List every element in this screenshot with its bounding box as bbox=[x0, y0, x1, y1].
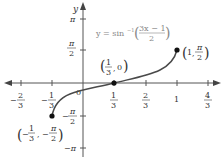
svg-text:): ) bbox=[165, 25, 170, 41]
svg-text:): ) bbox=[204, 45, 209, 61]
svg-text:y = sin: y = sin bbox=[95, 29, 124, 38]
y-axis-label: y bbox=[72, 4, 79, 14]
svg-text:2: 2 bbox=[69, 49, 74, 58]
svg-text:2: 2 bbox=[149, 34, 154, 43]
point-one-third-zero bbox=[111, 80, 116, 85]
y-tick-label-neg-pi-2: − π 2 bbox=[62, 107, 77, 126]
x-tick-label-1-3: 1 3 bbox=[110, 91, 118, 110]
svg-text:3: 3 bbox=[205, 101, 210, 110]
svg-text:3: 3 bbox=[111, 101, 116, 110]
svg-text:3x − 1: 3x − 1 bbox=[139, 24, 165, 33]
svg-text:−: − bbox=[22, 130, 29, 139]
svg-text:π: π bbox=[68, 39, 75, 48]
svg-text:π: π bbox=[69, 107, 76, 116]
svg-text:2: 2 bbox=[51, 134, 56, 143]
svg-text:3: 3 bbox=[29, 134, 34, 143]
svg-text:2: 2 bbox=[197, 53, 202, 62]
x-tick-label-4-3: 4 3 bbox=[204, 91, 212, 110]
svg-text:): ) bbox=[58, 127, 63, 143]
svg-text:,: , bbox=[37, 130, 40, 139]
svg-text:2: 2 bbox=[18, 91, 23, 100]
svg-text:−: − bbox=[42, 130, 49, 139]
x-axis-left-arrow-icon bbox=[4, 80, 12, 86]
svg-text:,: , bbox=[192, 49, 195, 58]
x-tick-label-neg-2-3: − 2 3 bbox=[10, 91, 25, 110]
svg-text:π: π bbox=[50, 124, 57, 133]
label-point-neg-one-third-neg-pi-over-2: ( − 1 3 , − π 2 ) bbox=[17, 124, 63, 143]
svg-text:(: ( bbox=[100, 58, 105, 74]
chart: y − 2 3 − 1 3 1 3 2 3 1 4 3 bbox=[0, 0, 222, 157]
label-point-one-pi-over-2: ( 1 , π 2 ) bbox=[182, 43, 209, 62]
svg-text:−: − bbox=[62, 112, 69, 121]
svg-text:3: 3 bbox=[49, 101, 54, 110]
y-tick-label-neg-pi: −π bbox=[64, 144, 77, 153]
y-tick-label-pi: π bbox=[69, 15, 76, 24]
y-tick-label-pi-2: π 2 bbox=[67, 39, 76, 58]
equation-label: y = sin −1 ( 3x − 1 2 ) bbox=[95, 24, 170, 43]
point-one-pi-over-2 bbox=[174, 47, 179, 52]
svg-text:,: , bbox=[113, 64, 116, 73]
svg-text:1: 1 bbox=[29, 124, 34, 133]
svg-text:): ) bbox=[123, 58, 128, 74]
y-axis-up-arrow-icon bbox=[80, 2, 86, 10]
x-tick-label-neg-1-3: − 1 3 bbox=[41, 91, 56, 110]
svg-text:−: − bbox=[41, 96, 48, 105]
svg-text:1: 1 bbox=[49, 91, 54, 100]
svg-text:2: 2 bbox=[70, 117, 75, 126]
svg-text:4: 4 bbox=[205, 91, 210, 100]
svg-text:1: 1 bbox=[111, 91, 116, 100]
x-tick-label-1: 1 bbox=[174, 95, 179, 104]
svg-text:0: 0 bbox=[117, 63, 122, 72]
x-tick-label-2-3: 2 3 bbox=[142, 91, 150, 110]
svg-text:−: − bbox=[10, 96, 17, 105]
svg-text:3: 3 bbox=[18, 101, 23, 110]
x-axis-right-arrow-icon bbox=[213, 80, 221, 86]
svg-text:3: 3 bbox=[143, 101, 148, 110]
svg-text:2: 2 bbox=[143, 91, 148, 100]
svg-text:3: 3 bbox=[106, 68, 111, 77]
label-point-one-third-zero: ( 1 3 , 0 ) bbox=[100, 58, 128, 77]
svg-text:π: π bbox=[196, 43, 203, 52]
svg-text:1: 1 bbox=[106, 58, 111, 67]
point-neg-one-third-neg-pi-over-2 bbox=[49, 113, 54, 118]
